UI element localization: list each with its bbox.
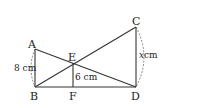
label-d: D: [131, 90, 140, 103]
label-c: C: [132, 15, 140, 28]
label-b: B: [30, 90, 38, 103]
label-f: F: [69, 90, 77, 103]
diagram-canvas: A B C D E F 8 cm 6 cm x cm: [0, 0, 197, 108]
length-ef: 6 cm: [75, 72, 98, 82]
label-e: E: [68, 51, 76, 64]
geometry-diagram: A B C D E F 8 cm 6 cm x cm: [0, 0, 197, 108]
length-ab: 8 cm: [14, 63, 37, 73]
label-a: A: [27, 38, 37, 51]
length-cd-unit: cm: [144, 50, 158, 60]
